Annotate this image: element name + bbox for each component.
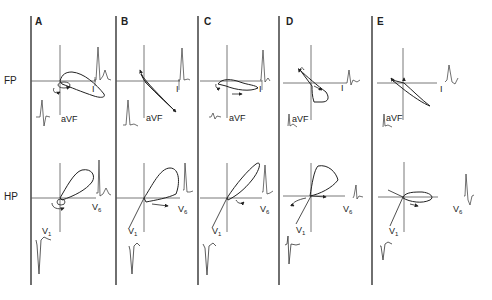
panel-d-hp-loop — [310, 166, 338, 196]
panel-label-e: E — [377, 16, 384, 27]
panel-e-fp-loop — [392, 80, 430, 106]
row-label-frontal-plane: FP — [4, 75, 17, 86]
vectorcardiogram-figure: FP HP A B C D E aVF — [0, 0, 492, 300]
panel-a-v6-label: V6 — [92, 202, 102, 213]
panel-d-lead-i-label: I — [341, 83, 344, 93]
panel-e-lead-i-ecg — [445, 65, 458, 84]
panel-e-hp-axes — [378, 162, 438, 232]
panel-label-b: B — [121, 16, 128, 27]
panel-d: I aVF V6 V1 — [283, 45, 363, 264]
panel-a-avf-ecg — [36, 100, 50, 126]
panel-a-lead-i-ecg — [94, 47, 111, 80]
panel-e-avf-label: aVF — [386, 113, 403, 123]
panel-a-fp-axes — [31, 45, 96, 115]
panel-b: aVF V6 V1 — [116, 45, 193, 274]
panel-e-v1-label: V1 — [389, 226, 399, 237]
panel-d-v1-ecg — [285, 236, 300, 264]
panel-b-avf-ecg — [123, 100, 138, 126]
panel-c-hp-loop — [227, 163, 259, 200]
panel-a-lead-i-label: I — [92, 84, 95, 94]
panel-d-v6-label: V6 — [343, 204, 353, 215]
panel-c: aVF V6 V1 — [200, 45, 273, 275]
panel-b-fp-loop — [141, 74, 174, 110]
panel-e-v6-ecg — [464, 174, 474, 205]
panel-c-hp-axes — [200, 163, 262, 232]
panel-a-avf-label: aVF — [61, 114, 78, 124]
panel-label-c: C — [204, 16, 211, 27]
panel-b-v6-label: V6 — [178, 204, 188, 215]
panel-c-v1-label: V1 — [212, 226, 222, 237]
panel-label-d: D — [286, 16, 293, 27]
panel-b-avf-label: aVF — [146, 113, 163, 123]
panel-c-v6-ecg — [262, 165, 273, 194]
panel-a-hp-loop — [60, 170, 94, 200]
panel-c-fp-axes — [200, 45, 262, 118]
panel-a-v1-label: V1 — [42, 226, 52, 237]
panel-a-hp-axes — [31, 163, 96, 232]
panel-b-hp-axes — [116, 163, 180, 232]
panel-a-fp-loop — [60, 72, 104, 97]
panel-a-v1-ecg — [36, 237, 51, 274]
panel-b-v1-ecg — [129, 243, 140, 274]
panel-e-lead-i-label: I — [440, 84, 443, 94]
panel-d-lead-i-ecg — [345, 70, 360, 85]
panel-b-lead-i-ecg — [178, 48, 190, 80]
panel-e-fp-axes — [377, 48, 437, 120]
panel-label-a: A — [35, 16, 42, 27]
panel-a-v6-ecg — [96, 160, 111, 196]
panel-c-lead-i-label: I — [259, 84, 262, 94]
panel-c-avf-ecg — [209, 113, 221, 119]
panel-c-lead-i-ecg — [260, 50, 270, 82]
panel-e-v1-ecg — [380, 242, 392, 260]
panel-a: aVF V6 V1 — [31, 45, 111, 274]
panel-b-v6-ecg — [183, 163, 193, 192]
panel-d-avf-label: aVF — [292, 114, 309, 124]
panel-c-v1-ecg — [203, 243, 216, 275]
column-dividers — [31, 16, 372, 285]
panel-d-v1-label: V1 — [296, 225, 306, 236]
panel-e: I aVF V6 V1 — [377, 48, 474, 260]
panel-b-hp-loop — [144, 168, 178, 202]
figure-canvas: FP HP A B C D E aVF — [0, 0, 492, 300]
panel-d-v6-ecg — [353, 185, 363, 199]
panel-c-avf-label: aVF — [229, 113, 246, 123]
panel-c-v6-label: V6 — [260, 204, 270, 215]
panel-b-lead-i-label: I — [176, 84, 179, 94]
panel-d-hp-axes — [283, 163, 345, 232]
panel-b-v1-label: V1 — [128, 226, 138, 237]
row-label-horizontal-plane: HP — [4, 191, 18, 202]
panel-e-v6-label: V6 — [453, 204, 463, 215]
